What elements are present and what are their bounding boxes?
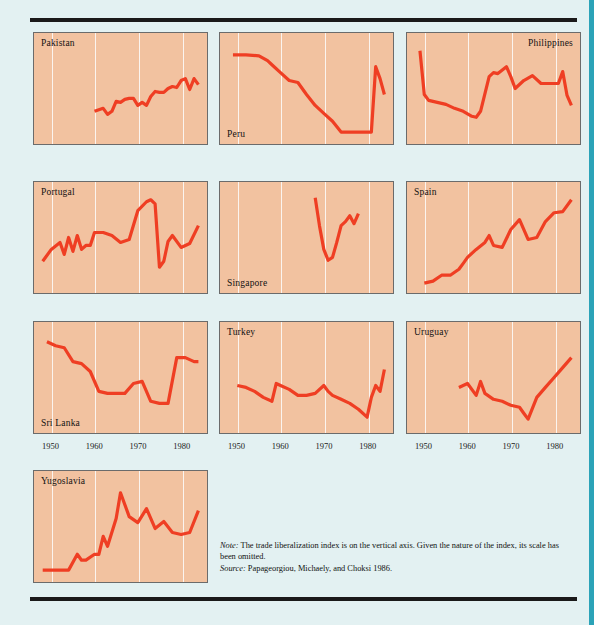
x-tick-1950: 1950 [42, 441, 59, 451]
x-tick-1980: 1980 [359, 441, 376, 451]
panel-sri-lanka: Sri Lanka [33, 321, 208, 434]
figure-notes: Note: The trade liberalization index is … [220, 540, 570, 574]
trend-line-pakistan [34, 33, 207, 144]
trend-line-uruguay [407, 322, 580, 433]
panel-label-singapore: Singapore [227, 278, 267, 288]
x-tick-1970: 1970 [503, 441, 520, 451]
panel-uruguay: Uruguay [406, 321, 581, 434]
panel-singapore: Singapore [219, 181, 394, 294]
x-tick-1950: 1950 [415, 441, 432, 451]
panel-label-philippines: Philippines [528, 38, 573, 48]
x-tick-1960: 1960 [459, 441, 476, 451]
trend-line-philippines [407, 33, 580, 144]
panel-peru: Peru [219, 32, 394, 145]
trend-line-spain [407, 182, 580, 293]
panel-label-sri-lanka: Sri Lanka [41, 418, 80, 428]
x-tick-1980: 1980 [173, 441, 190, 451]
trend-line-turkey [220, 322, 393, 433]
note-line: Note: The trade liberalization index is … [220, 540, 570, 563]
page-spine-bar [589, 0, 594, 625]
x-axis-labels-col2: 1950196019701980 [219, 441, 394, 455]
panel-philippines: Philippines [406, 32, 581, 145]
panel-label-yugoslavia: Yugoslavia [41, 476, 85, 486]
panel-pakistan: Pakistan [33, 32, 208, 145]
source-label: Source: [220, 564, 246, 573]
x-tick-1970: 1970 [316, 441, 333, 451]
x-tick-1960: 1960 [272, 441, 289, 451]
note-text: The trade liberalization index is on the… [220, 541, 559, 561]
panel-turkey: Turkey [219, 321, 394, 434]
figure-page: PakistanPeruPhilippinesPortugalSingapore… [0, 0, 604, 625]
panel-portugal: Portugal [33, 181, 208, 294]
x-axis-labels-col3: 1950196019701980 [406, 441, 581, 455]
x-tick-1950: 1950 [228, 441, 245, 451]
bottom-rule [30, 597, 577, 601]
x-tick-1970: 1970 [130, 441, 147, 451]
panel-label-peru: Peru [227, 129, 245, 139]
x-axis-labels-col1: 1950196019701980 [33, 441, 208, 455]
panel-label-pakistan: Pakistan [41, 38, 75, 48]
panel-label-uruguay: Uruguay [414, 327, 449, 337]
source-text: Papageorgiou, Michaely, and Choksi 1986. [246, 564, 392, 573]
panel-label-portugal: Portugal [41, 187, 75, 197]
source-line: Source: Papageorgiou, Michaely, and Chok… [220, 563, 570, 574]
trend-line-peru [220, 33, 393, 144]
x-tick-1980: 1980 [546, 441, 563, 451]
trend-line-yugoslavia [34, 471, 207, 582]
x-tick-1960: 1960 [86, 441, 103, 451]
note-label: Note: [220, 541, 239, 550]
page-edge-white [594, 0, 604, 625]
trend-line-sri-lanka [34, 322, 207, 433]
panel-label-spain: Spain [414, 187, 437, 197]
trend-line-portugal [34, 182, 207, 293]
trend-line-singapore [220, 182, 393, 293]
panel-spain: Spain [406, 181, 581, 294]
top-rule [30, 18, 577, 22]
panel-label-turkey: Turkey [227, 327, 255, 337]
panel-yugoslavia: Yugoslavia [33, 470, 208, 583]
